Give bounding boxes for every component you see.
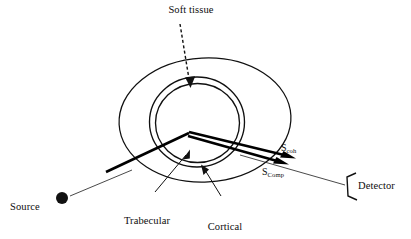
detector-bracket-icon (347, 173, 357, 200)
coherent-scatter-label: Scoh (281, 142, 296, 153)
compton-scatter-symbol: S (262, 166, 268, 177)
trabecular-leader-arrowhead (183, 150, 191, 160)
compton-scatter-arrowhead (273, 157, 289, 165)
soft-tissue-label: Soft tissue (139, 4, 243, 16)
cortical-leader-line (205, 170, 221, 196)
compton-scatter-label: SComp (262, 166, 284, 177)
cortical-bone-outer-boundary (150, 77, 245, 167)
soft-tissue-leader-dashed (180, 24, 189, 79)
cortical-bone-label-line1: Cortical (192, 221, 258, 233)
soft-tissue-leader-arrowhead (185, 76, 195, 88)
cortical-bone-label: Cortical bone (192, 198, 258, 239)
detector-ray-thin (240, 155, 345, 185)
detector-label: Detector (358, 180, 408, 192)
coherent-scatter-symbol: S (281, 142, 287, 153)
diagram-canvas: Soft tissue Trabecular bone Cortical bon… (0, 0, 411, 239)
cortical-bone-inner-boundary (156, 84, 240, 163)
compton-scatter-beam (188, 136, 277, 161)
trabecular-bone-label-line1: Trabecular (108, 215, 186, 227)
source-label: Source (10, 201, 62, 213)
coherent-scatter-subscript: coh (287, 147, 297, 154)
coherent-scatter-beam (189, 132, 284, 155)
trabecular-bone-label: Trabecular bone (108, 192, 186, 239)
compton-scatter-subscript: Comp (268, 171, 285, 178)
